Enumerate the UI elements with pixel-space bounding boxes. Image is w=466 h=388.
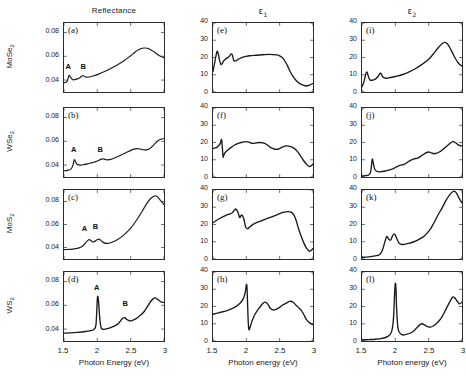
y-tick-label: 20 xyxy=(180,53,208,60)
y-tick-label: 0 xyxy=(180,88,208,95)
column-header-eps2: ε2 xyxy=(362,6,462,18)
peak-label-a: A xyxy=(82,224,87,233)
y-tick-label: 30 xyxy=(180,202,208,209)
y-tick-label: 0 xyxy=(329,255,357,262)
y-tick-label: 40 xyxy=(329,184,357,191)
y-tick-label: 10 xyxy=(180,319,208,326)
x-tick-label: 2.5 xyxy=(117,346,145,355)
panel-label-k: (k) xyxy=(366,192,377,202)
panel-label-a: (a) xyxy=(68,25,78,35)
y-tick-label: 10 xyxy=(329,70,357,77)
y-tick-label: 30 xyxy=(180,120,208,127)
peak-label-a: A xyxy=(71,145,76,154)
y-tick-label: 10 xyxy=(180,70,208,77)
curve-b xyxy=(64,108,164,177)
x-tick-label: 3 xyxy=(151,346,179,355)
x-tick-label: 2 xyxy=(83,346,111,355)
panel-label-h: (h) xyxy=(217,274,228,284)
y-tick-label: 20 xyxy=(329,138,357,145)
y-tick-label: 30 xyxy=(329,120,357,127)
y-tick-label: 20 xyxy=(180,302,208,309)
column-header-reflectance: Reflectance xyxy=(64,6,164,15)
curve-k xyxy=(362,190,462,259)
panel-label-b: (b) xyxy=(68,110,79,120)
y-tick-label: 10 xyxy=(329,319,357,326)
x-tick-label: 2.5 xyxy=(266,346,294,355)
y-tick-label: 0 xyxy=(329,173,357,180)
curve-d xyxy=(64,272,164,341)
figure-panel-grid: Reflectanceε1ε2MoSe2WSe2MoS2WS2(a)AB0.04… xyxy=(0,0,466,388)
curve-j xyxy=(362,108,462,177)
x-tick-label: 2 xyxy=(232,346,260,355)
panel-label-j: (j) xyxy=(366,110,375,120)
y-tick-label: 30 xyxy=(180,284,208,291)
panel-i xyxy=(361,22,463,93)
curve-g xyxy=(213,190,313,259)
y-tick-label: 0.08 xyxy=(31,196,59,203)
x-tick-label: 2 xyxy=(381,346,409,355)
y-tick-label: 0.06 xyxy=(31,300,59,307)
y-tick-label: 10 xyxy=(329,237,357,244)
peak-label-a: A xyxy=(94,283,99,292)
y-tick-label: 40 xyxy=(329,17,357,24)
y-tick-label: 0.04 xyxy=(31,243,59,250)
y-tick-label: 0.04 xyxy=(31,325,59,332)
y-tick-label: 30 xyxy=(329,284,357,291)
y-tick-label: 0.04 xyxy=(31,161,59,168)
y-tick-label: 20 xyxy=(329,302,357,309)
y-tick-label: 10 xyxy=(180,155,208,162)
curve-c xyxy=(64,190,164,259)
curve-i xyxy=(362,23,462,92)
x-axis-title-eps1: Photon energy (eV) xyxy=(203,358,323,367)
panel-label-g: (g) xyxy=(217,192,228,202)
panel-label-l: (l) xyxy=(366,274,375,284)
y-tick-label: 20 xyxy=(180,138,208,145)
y-tick-label: 0.06 xyxy=(31,136,59,143)
y-tick-label: 0 xyxy=(329,337,357,344)
panel-label-i: (i) xyxy=(366,25,375,35)
panel-c xyxy=(63,189,165,260)
y-tick-label: 0 xyxy=(180,337,208,344)
panel-j xyxy=(361,107,463,178)
x-tick-label: 2.5 xyxy=(415,346,443,355)
y-tick-label: 0.08 xyxy=(31,27,59,34)
y-tick-label: 0 xyxy=(180,173,208,180)
curve-e xyxy=(213,23,313,92)
y-tick-label: 40 xyxy=(180,266,208,273)
peak-label-b: B xyxy=(97,145,102,154)
panel-e xyxy=(212,22,314,93)
panel-l xyxy=(361,271,463,342)
peak-label-b: B xyxy=(80,62,85,71)
row-label-ws2: WS2 xyxy=(5,273,16,337)
y-tick-label: 0.04 xyxy=(31,76,59,83)
x-tick-label: 1.5 xyxy=(49,346,77,355)
y-tick-label: 0.06 xyxy=(31,220,59,227)
y-tick-label: 30 xyxy=(180,35,208,42)
peak-label-b: B xyxy=(93,222,98,231)
x-tick-label: 3 xyxy=(449,346,466,355)
row-label-wse2: WSe2 xyxy=(5,109,16,173)
y-tick-label: 30 xyxy=(329,35,357,42)
y-tick-label: 40 xyxy=(180,184,208,191)
y-tick-label: 40 xyxy=(180,102,208,109)
peak-label-b: B xyxy=(123,299,128,308)
panel-f xyxy=(212,107,314,178)
y-tick-label: 20 xyxy=(180,220,208,227)
panel-label-d: (d) xyxy=(68,274,79,284)
x-tick-label: 1.5 xyxy=(347,346,375,355)
panel-label-e: (e) xyxy=(217,25,227,35)
y-tick-label: 20 xyxy=(329,220,357,227)
y-tick-label: 0 xyxy=(329,88,357,95)
y-tick-label: 20 xyxy=(329,53,357,60)
x-tick-label: 1.5 xyxy=(198,346,226,355)
y-tick-label: 0 xyxy=(180,255,208,262)
x-axis-title-eps2: Photon energy (eV) xyxy=(352,358,466,367)
row-label-mose2: MoSe2 xyxy=(5,24,16,88)
peak-label-a: A xyxy=(65,62,70,71)
x-tick-label: 3 xyxy=(300,346,328,355)
x-axis-title-reflectance: Photon Energy (eV) xyxy=(54,358,174,367)
y-tick-label: 10 xyxy=(329,155,357,162)
panel-label-c: (c) xyxy=(68,192,78,202)
y-tick-label: 0.08 xyxy=(31,112,59,119)
panel-a xyxy=(63,22,165,93)
